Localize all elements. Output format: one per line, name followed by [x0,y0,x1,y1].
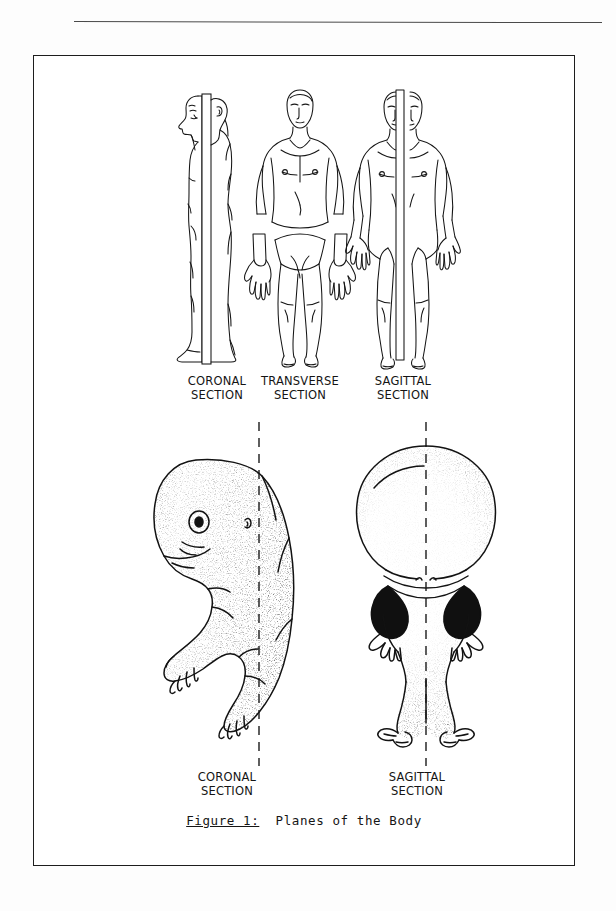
transverse-adult-illustration [241,74,359,374]
header-rule [74,21,602,23]
fetus-figure-sagittal: SAGITTAL SECTION [302,418,532,818]
figure-caption-key: Figure 1: [186,813,259,828]
plane-label-line2: SECTION [261,388,339,402]
figure-caption: Figure 1: Planes of the Body [34,813,574,828]
figure-frame: CORONAL SECTION [33,55,575,866]
sagittal-fetus-illustration [302,418,532,770]
sagittal-adult-illustration [344,74,462,374]
plane-label-line2: SECTION [375,388,431,402]
adult-figure-transverse: TRANSVERSE SECTION [241,74,359,424]
plane-label-coronal-adult: CORONAL SECTION [188,374,246,402]
adult-figure-sagittal: SAGITTAL SECTION [344,74,462,424]
plane-label-coronal-fetus: CORONAL SECTION [198,770,256,798]
plane-label-line2: SECTION [389,784,445,798]
adult-figures-row: CORONAL SECTION [34,74,574,424]
plane-label-line1: CORONAL [198,770,256,784]
plane-label-sagittal-adult: SAGITTAL SECTION [375,374,431,402]
plane-label-line1: CORONAL [188,374,246,388]
plane-label-line2: SECTION [198,784,256,798]
figure-caption-text: Planes of the Body [259,813,422,828]
plane-label-transverse-adult: TRANSVERSE SECTION [261,374,339,402]
plane-label-sagittal-fetus: SAGITTAL SECTION [389,770,445,798]
plane-label-line1: SAGITTAL [375,374,431,388]
plane-label-line1: TRANSVERSE [261,374,339,388]
plane-label-line2: SECTION [188,388,246,402]
fetus-figures-row: CORONAL SECTION [34,418,574,818]
plane-label-line1: SAGITTAL [389,770,445,784]
page-canvas: CORONAL SECTION [0,0,616,911]
